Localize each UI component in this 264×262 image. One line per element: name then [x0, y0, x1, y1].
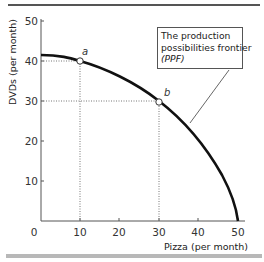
point-a-label: a [82, 46, 88, 57]
y-tick-20: 20 [25, 135, 38, 147]
x-tick-10: 10 [73, 226, 86, 238]
ppf-curve [41, 55, 238, 221]
y-tick-40: 40 [25, 55, 38, 67]
callout-line-3: (PPF) [161, 53, 239, 65]
guide-lines [41, 61, 159, 221]
ppf-callout-box: The production possibilities frontier (P… [157, 27, 243, 69]
y-tick-10: 10 [25, 175, 38, 187]
y-axis-title: DVDs (per month) [7, 19, 18, 105]
y-tick-30: 30 [25, 95, 38, 107]
x-tick-30: 30 [152, 226, 165, 238]
origin-label: 0 [31, 226, 38, 238]
x-axis-title: Pizza (per month) [164, 241, 248, 252]
x-tick-20: 20 [112, 226, 125, 238]
callout-leader-line [190, 70, 229, 123]
y-tick-50: 50 [25, 15, 38, 27]
bottom-rule [6, 254, 262, 258]
x-tick-40: 40 [191, 226, 204, 238]
callout-line-2: possibilities frontier [161, 42, 239, 54]
point-a-marker [77, 58, 83, 64]
point-b-label: b [164, 87, 170, 98]
callout-line-1: The production [161, 30, 239, 42]
x-tick-50: 50 [231, 226, 244, 238]
point-b-marker [156, 99, 162, 105]
